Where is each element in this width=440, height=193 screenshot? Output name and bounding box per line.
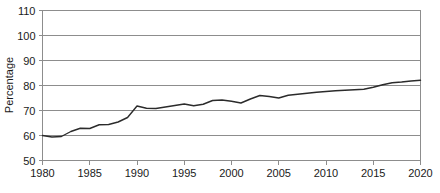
x-tick-label-1980: 1980: [30, 167, 54, 179]
x-tick-label-1995: 1995: [172, 167, 196, 179]
y-tick-label-50: 50: [23, 155, 35, 167]
x-tick-label-2010: 2010: [314, 167, 338, 179]
x-tick-label-1985: 1985: [78, 167, 102, 179]
y-tick-label-70: 70: [23, 105, 35, 117]
x-tick-label-1990: 1990: [125, 167, 149, 179]
y-tick-label-80: 80: [23, 80, 35, 92]
line-chart: 5060708090100110 19801985199019952000200…: [0, 0, 440, 193]
x-tick-label-2005: 2005: [267, 167, 291, 179]
chart-canvas: 5060708090100110 19801985199019952000200…: [0, 0, 440, 193]
y-tick-label-110: 110: [18, 5, 36, 17]
y-axis-title: Percentage: [3, 57, 15, 113]
x-tick-label-2000: 2000: [219, 167, 243, 179]
y-tick-label-90: 90: [23, 55, 35, 67]
chart-background: [0, 0, 440, 193]
y-tick-label-100: 100: [17, 30, 35, 42]
x-tick-label-2015: 2015: [361, 167, 385, 179]
y-tick-label-60: 60: [23, 130, 35, 142]
x-tick-label-2020: 2020: [408, 167, 432, 179]
